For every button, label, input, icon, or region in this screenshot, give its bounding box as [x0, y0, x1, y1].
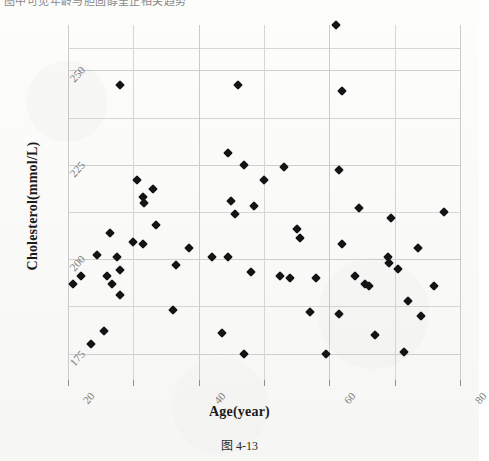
- x-axis-tick-mark: [199, 380, 200, 386]
- scatter-point: [413, 243, 423, 253]
- scatter-point: [112, 252, 122, 262]
- scatter-point: [295, 233, 305, 243]
- scatter-point: [99, 326, 109, 336]
- scatter-point: [429, 281, 439, 291]
- x-axis-tick-mark: [68, 380, 69, 386]
- scatter-point: [115, 80, 125, 90]
- gridline-vertical: [460, 25, 461, 380]
- scatter-point: [76, 271, 86, 281]
- scatter-point: [239, 160, 249, 170]
- scatter-point: [115, 266, 125, 276]
- scatter-point: [259, 175, 269, 185]
- gridline-vertical: [264, 25, 265, 380]
- scatter-point: [217, 328, 227, 338]
- scatter-point: [334, 165, 344, 175]
- scatter-point: [249, 201, 259, 211]
- scatter-point: [334, 309, 344, 319]
- x-axis-tick-mark: [133, 380, 134, 386]
- scatter-point: [184, 243, 194, 253]
- scatter-point: [138, 239, 148, 249]
- scatter-point: [128, 237, 138, 247]
- scatter-point: [370, 330, 380, 340]
- scatter-chart: 20406080175200225250 Age(year) Cholester…: [0, 0, 479, 430]
- plot-area: 20406080175200225250: [68, 25, 460, 380]
- scatter-point: [400, 347, 410, 357]
- scatter-point: [311, 273, 321, 283]
- scatter-point: [403, 296, 413, 306]
- scatter-point: [107, 279, 117, 289]
- gridline-vertical: [329, 25, 330, 380]
- scatter-point: [305, 307, 315, 317]
- scatter-point: [207, 252, 217, 262]
- scatter-point: [279, 162, 289, 172]
- scatter-point: [230, 209, 240, 219]
- scatter-point: [223, 252, 233, 262]
- figure-caption: 图 4-13: [0, 436, 479, 454]
- scatter-point: [115, 290, 125, 300]
- scatter-point: [68, 279, 78, 289]
- scatter-point: [106, 228, 116, 238]
- x-axis-tick-mark: [395, 380, 396, 386]
- scatter-point: [331, 20, 341, 30]
- y-axis-tick-label: 175: [67, 348, 87, 368]
- scatter-point: [86, 339, 96, 349]
- scatter-point: [223, 148, 233, 158]
- gridline-vertical: [199, 25, 200, 380]
- scatter-point: [337, 239, 347, 249]
- scatter-point: [226, 196, 236, 206]
- y-axis-tick-label: 225: [67, 159, 87, 179]
- x-axis-title: Age(year): [0, 404, 479, 420]
- scatter-point: [416, 311, 426, 321]
- scatter-point: [148, 184, 158, 194]
- scatter-point: [285, 273, 295, 283]
- x-axis-tick-mark: [460, 380, 461, 386]
- y-axis-tick-label: 250: [67, 64, 87, 84]
- scatter-point: [275, 271, 285, 281]
- gridline-vertical: [133, 25, 134, 380]
- y-axis-tick-label: 200: [67, 253, 87, 273]
- x-axis-tick-mark: [329, 380, 330, 386]
- scatter-point: [233, 80, 243, 90]
- scatter-point: [239, 349, 249, 359]
- scatter-point: [439, 207, 449, 217]
- scatter-point: [337, 86, 347, 96]
- gridline-vertical: [395, 25, 396, 380]
- y-axis-title: Cholesterol(mmol/L): [25, 111, 41, 301]
- scatter-point: [246, 267, 256, 277]
- x-axis-tick-mark: [264, 380, 265, 386]
- scatter-point: [171, 260, 181, 270]
- scatter-point: [151, 220, 161, 230]
- scatter-point: [351, 271, 361, 281]
